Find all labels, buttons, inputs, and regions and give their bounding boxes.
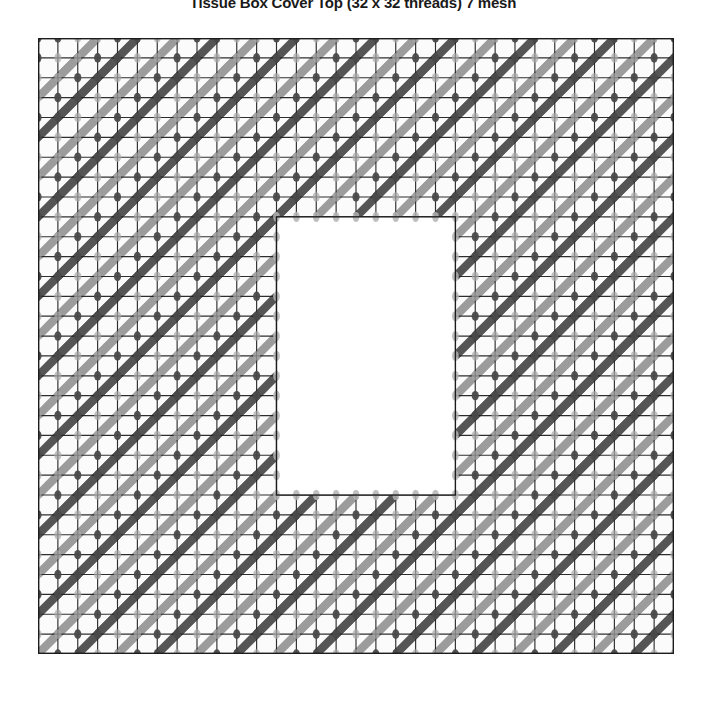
pattern-canvas-svg xyxy=(38,38,674,654)
needlepoint-pattern-grid xyxy=(38,38,674,654)
pattern-chart-page: Tissue Box Cover Top (32 x 32 threads) 7… xyxy=(0,0,706,701)
page-title: Tissue Box Cover Top (32 x 32 threads) 7… xyxy=(0,0,706,12)
